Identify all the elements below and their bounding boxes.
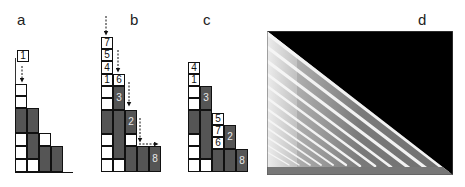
panel-d-density-plot [267,31,453,175]
density-plot-image [267,31,453,175]
